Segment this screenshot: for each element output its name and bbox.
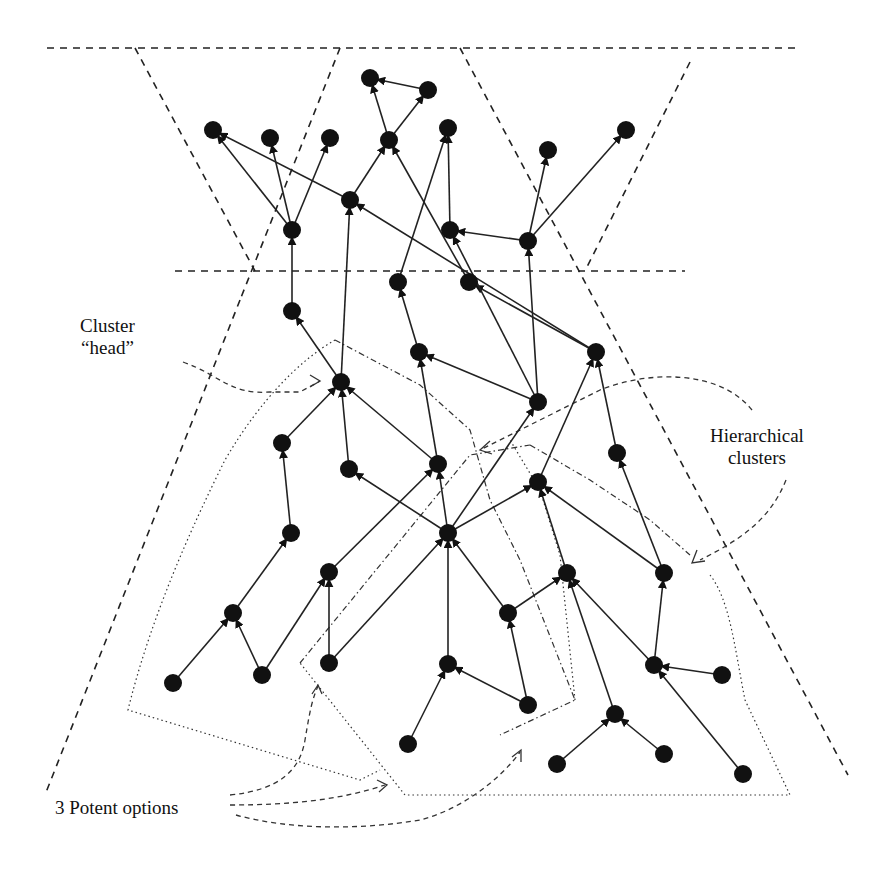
cluster-head-label: Cluster “head” — [80, 315, 135, 359]
edge-S-P — [292, 311, 341, 382]
hierarchical-clusters-label-line2: clusters — [710, 447, 804, 469]
edge-AI-AA — [329, 533, 448, 663]
edge-AD-Z — [538, 482, 664, 573]
node-C — [204, 121, 222, 139]
node-D — [261, 129, 279, 147]
upper-inner-left-line — [240, 48, 340, 300]
node-G — [439, 119, 457, 137]
node-N — [389, 273, 407, 291]
hierarchical-callout-lower — [700, 480, 786, 560]
edge-Z-R — [538, 352, 596, 482]
hierarchical-arrowhead-lower — [692, 550, 705, 563]
node-AE — [224, 604, 242, 622]
edge-T-L — [450, 230, 538, 402]
potent-option-callout-2 — [230, 785, 385, 805]
node-Y — [282, 524, 300, 542]
node-F — [380, 131, 398, 149]
node-J — [341, 191, 359, 209]
node-AJ — [439, 655, 457, 673]
edge-F-B — [389, 90, 428, 140]
edge-M-L — [450, 230, 528, 241]
node-AM — [519, 696, 537, 714]
cluster-head-callout — [183, 362, 320, 392]
node-AH — [253, 666, 271, 684]
edge-AD-X — [617, 453, 664, 573]
potent-option-callout-1 — [230, 686, 318, 795]
edge-T-M — [528, 241, 538, 402]
lower-right-cluster-outline — [300, 575, 790, 795]
edge-AL-AK — [654, 665, 722, 675]
node-AL — [713, 666, 731, 684]
edge-AC-Z — [538, 482, 567, 573]
potent-options-label: 3 Potent options — [55, 797, 179, 819]
edge-AQ-AN — [615, 714, 664, 754]
edge-Q-N — [398, 282, 419, 352]
upper-right-funnel-line — [585, 62, 690, 271]
node-AA — [439, 524, 457, 542]
node-AK — [645, 656, 663, 674]
edge-AK-AD — [654, 573, 664, 665]
edge-W-S — [341, 382, 438, 464]
edge-J-F — [350, 140, 389, 200]
right-cluster-outline — [530, 445, 690, 555]
edge-AA-W — [438, 464, 448, 533]
node-H — [539, 141, 557, 159]
callouts — [183, 362, 786, 827]
edge-V-S — [341, 382, 349, 469]
node-E — [321, 129, 339, 147]
node-K — [283, 221, 301, 239]
edge-M-H — [528, 150, 548, 241]
edge-AE-Y — [233, 533, 291, 613]
edge-S-J — [341, 200, 350, 382]
edge-AF-AC — [508, 573, 567, 613]
edge-AF-AA — [448, 533, 508, 613]
edge-AH-AE — [233, 613, 262, 675]
node-U — [273, 434, 291, 452]
cluster-outlines — [128, 340, 790, 795]
edge-Y-U — [282, 443, 291, 533]
node-P — [283, 302, 301, 320]
edge-AN-AC — [567, 573, 615, 714]
node-B — [419, 81, 437, 99]
node-AF — [499, 604, 517, 622]
potent-options-text: 3 Potent options — [55, 797, 179, 818]
edge-AO-AJ — [408, 664, 448, 744]
node-O — [460, 273, 478, 291]
node-I — [617, 121, 635, 139]
node-T — [529, 393, 547, 411]
node-AD — [655, 564, 673, 582]
edge-AK-AC — [567, 573, 654, 665]
edge-U-S — [282, 382, 341, 443]
potent-option-callout-3 — [236, 752, 520, 827]
cluster-head-label-line1: Cluster — [80, 315, 135, 337]
edge-AA-V — [349, 469, 448, 533]
edge-N-G — [398, 128, 448, 282]
node-AG — [164, 674, 182, 692]
node-AC — [558, 564, 576, 582]
hierarchical-clusters-label-line1: Hierarchical — [710, 425, 804, 447]
edge-K-E — [292, 138, 330, 230]
node-AR — [734, 765, 752, 783]
edge-O-F — [389, 140, 469, 282]
node-Z — [529, 473, 547, 491]
edge-AA-Z — [448, 482, 538, 533]
node-Q — [410, 343, 428, 361]
edge-AB-W — [329, 464, 438, 572]
node-W — [429, 455, 447, 473]
hierarchical-clusters-label: Hierarchical clusters — [710, 425, 804, 469]
edge-W-Q — [419, 352, 438, 464]
node-S — [332, 373, 350, 391]
node-V — [340, 460, 358, 478]
node-M — [519, 232, 537, 250]
edge-F-A — [370, 78, 389, 140]
edge-AP-AN — [557, 714, 615, 764]
edge-T-Q — [419, 352, 538, 402]
edge-AM-AJ — [448, 664, 528, 705]
node-L — [441, 221, 459, 239]
node-X — [608, 444, 626, 462]
node-AN — [606, 705, 624, 723]
edge-AH-AB — [262, 572, 329, 675]
edge-AG-AE — [173, 613, 233, 683]
node-AO — [399, 735, 417, 753]
node-AI — [320, 654, 338, 672]
